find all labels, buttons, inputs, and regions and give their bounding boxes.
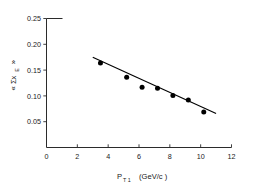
x-tick-label: 10 (197, 152, 205, 161)
y-tick-label: 0.10 (27, 92, 41, 101)
x-tick-label: 12 (228, 152, 236, 161)
x-axis-title-main: P (117, 172, 122, 181)
y-tick-label: 0.05 (27, 117, 41, 126)
y-axis-title-subscript: E (14, 68, 20, 72)
y-tick-label: 0.20 (27, 40, 41, 49)
data-point (98, 60, 103, 65)
x-tick-label: 4 (106, 152, 110, 161)
y-tick-label: 0.15 (27, 66, 41, 75)
scatter-plot: 0.050.100.150.200.25 024681012 P T 1 (Ge… (0, 0, 265, 186)
y-tick-label: 0.25 (27, 14, 41, 23)
data-point (201, 109, 206, 114)
data-point (140, 85, 145, 90)
figure-container: 0.050.100.150.200.25 024681012 P T 1 (Ge… (0, 0, 265, 186)
x-tick-label: 0 (45, 152, 49, 161)
data-point (155, 86, 160, 91)
data-point (186, 98, 191, 103)
x-axis-title-unit: (GeV/c ) (139, 172, 168, 181)
x-tick-label: 8 (168, 152, 172, 161)
y-axis-title-close: » (9, 60, 18, 64)
x-axis-title-subscript: T 1 (123, 177, 131, 183)
x-tick-label: 6 (137, 152, 141, 161)
data-point (170, 93, 175, 98)
data-point (124, 75, 129, 80)
x-tick-label: 2 (75, 152, 79, 161)
y-axis-title-main: « Σx (9, 75, 18, 90)
